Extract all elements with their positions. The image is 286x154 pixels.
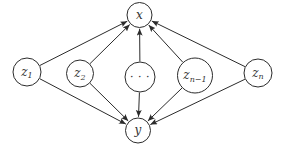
- edge-dots-to-y: [139, 92, 140, 116]
- node-label-x: x: [136, 8, 143, 22]
- node-label-dots: · · ·: [130, 71, 150, 84]
- diagram-canvas: xyz1z2· · ·zn−1zn: [0, 0, 286, 154]
- causal-graph-diagram: xyz1z2· · ·zn−1zn: [0, 0, 286, 154]
- edge-z1-to-x: [40, 21, 127, 65]
- node-label-y: y: [134, 123, 142, 137]
- edge-zn1-to-y: [148, 88, 182, 121]
- nodes-layer: xyz1z2· · ·zn−1zn: [13, 3, 272, 144]
- edge-zn1-to-x: [149, 25, 183, 62]
